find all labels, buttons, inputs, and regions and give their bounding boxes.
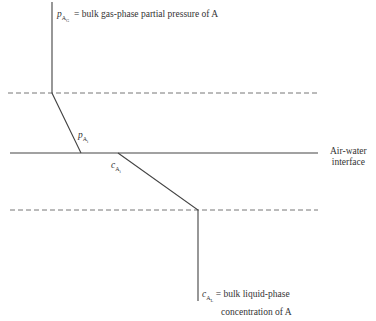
label-interface-concentration: cAi [111,160,121,177]
label-bulk-liquid-concentration: cAL = bulk liquid-phase [202,289,290,306]
subscript: AG [62,15,70,21]
label-air-water-interface: Air-water interface [330,146,367,168]
subscript: AL [206,295,213,301]
label-line-1: Air-water [330,146,367,157]
label-text-line-1: = bulk liquid-phase [216,289,290,299]
subscript: Ai [83,136,89,142]
label-text-line-2: concentration of A [221,307,292,317]
label-line-2: interface [330,157,367,168]
label-interface-pressure: pAi [78,130,88,147]
subscript: Ai [115,166,121,172]
diagram-canvas [0,0,376,321]
label-bulk-liquid-concentration-line2: concentration of A [221,307,292,318]
concentration-profile-liquid [118,153,198,301]
label-text: = bulk gas-phase partial pressure of A [74,9,218,19]
label-bulk-gas-pressure: pAG = bulk gas-phase partial pressure of… [57,9,218,26]
